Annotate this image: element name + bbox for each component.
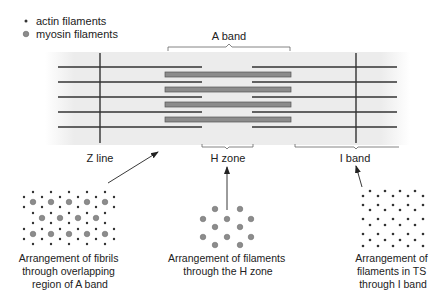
caption-overlap: Arrangement of fibrils through overlappi… xyxy=(19,252,122,290)
legend-actin-label: actin filaments xyxy=(36,15,107,27)
caption-i-band: Arrangement of filaments in TS through I… xyxy=(355,252,430,290)
caption-h-zone: Arrangement of filaments through the H z… xyxy=(168,252,288,277)
cross-section-i-band xyxy=(362,190,425,248)
actin-legend-icon xyxy=(25,20,28,23)
sarcomere-diagram: actin filaments myosin filaments A band xyxy=(0,0,442,306)
i-band-label: I band xyxy=(340,152,371,164)
legend-myosin-label: myosin filaments xyxy=(36,28,118,40)
a-band-bracket xyxy=(168,44,290,51)
myosin-legend-icon xyxy=(23,31,29,37)
h-zone-label: H zone xyxy=(211,152,246,164)
arrow-i-band xyxy=(356,166,362,187)
z-line-label: Z line xyxy=(87,152,114,164)
a-band-label: A band xyxy=(212,30,246,42)
legend: actin filaments myosin filaments xyxy=(23,15,118,40)
cross-section-overlap xyxy=(23,191,115,245)
cross-section-h-zone xyxy=(200,206,254,248)
arrow-overlap xyxy=(108,152,158,183)
